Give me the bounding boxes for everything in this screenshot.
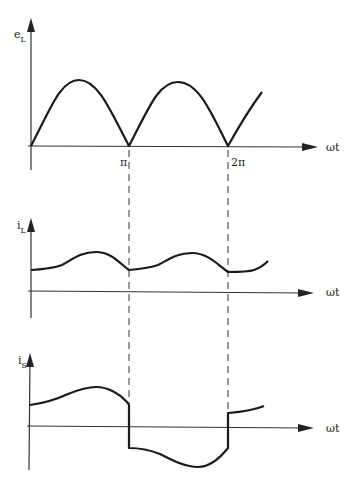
x-axis-label: ωt bbox=[326, 286, 340, 299]
x-axis-label: ωt bbox=[326, 422, 340, 435]
load-current-curve bbox=[31, 252, 268, 272]
y-axis-label: eL bbox=[14, 28, 27, 44]
x-axis-arrow-icon bbox=[298, 424, 314, 432]
tick-label-pi: π bbox=[120, 156, 127, 169]
tick-label-two-pi: 2π bbox=[231, 156, 245, 169]
waveform-diagram: eL ωt π 2π iL ωt iS ωt bbox=[0, 0, 357, 491]
panel-load-current: iL ωt bbox=[17, 218, 340, 318]
x-axis bbox=[28, 146, 310, 147]
load-voltage-curve bbox=[31, 80, 262, 146]
panel-source-current: iS ωt bbox=[18, 353, 340, 470]
y-axis-label: iS bbox=[18, 354, 27, 370]
y-axis-arrow-icon bbox=[27, 18, 35, 32]
x-axis bbox=[28, 291, 305, 293]
x-axis-arrow-icon bbox=[298, 289, 314, 297]
y-axis bbox=[29, 357, 30, 470]
x-axis bbox=[27, 426, 305, 428]
y-axis-arrow-icon bbox=[27, 218, 35, 232]
y-axis-label: iL bbox=[17, 219, 27, 235]
y-axis-arrow-icon bbox=[26, 353, 34, 367]
panel-load-voltage: eL ωt π 2π bbox=[14, 18, 340, 170]
x-axis-label: ωt bbox=[326, 141, 340, 154]
x-axis-arrow-icon bbox=[302, 143, 318, 151]
